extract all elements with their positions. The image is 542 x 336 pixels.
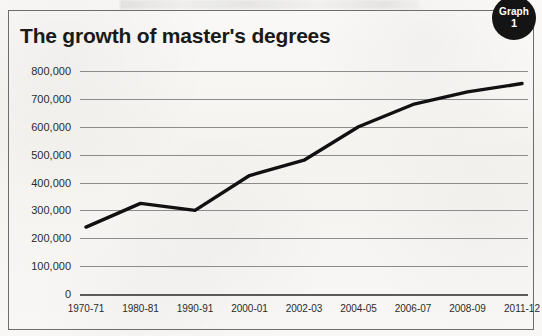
y-axis-tick-label: 400,000 bbox=[31, 177, 71, 189]
chart-page: The growth of master's degrees Graph 1 8… bbox=[0, 0, 542, 336]
x-axis-tick-label: 2008-09 bbox=[449, 303, 486, 314]
series-line-chart bbox=[80, 71, 528, 294]
y-axis-tick-label: 800,000 bbox=[31, 65, 71, 77]
y-axis-tick-label: 500,000 bbox=[31, 149, 71, 161]
y-axis-tick-label: 0 bbox=[65, 288, 71, 300]
y-axis-tick-label: 700,000 bbox=[31, 93, 71, 105]
x-axis-tick-label: 2000-01 bbox=[231, 303, 268, 314]
x-axis-tick-label: 2011-12 bbox=[504, 303, 540, 314]
x-axis-tick-label: 1970-71 bbox=[68, 303, 105, 314]
series-polyline bbox=[86, 84, 522, 228]
x-axis-tick-label: 1980-81 bbox=[122, 303, 159, 314]
y-axis-tick-label: 600,000 bbox=[31, 121, 71, 133]
x-axis-tick-label: 2002-03 bbox=[286, 303, 323, 314]
x-axis-tick-label: 2006-07 bbox=[395, 303, 432, 314]
y-axis-tick-label: 100,000 bbox=[31, 260, 71, 272]
page-bleed-artifact bbox=[120, 0, 420, 9]
gridline bbox=[80, 294, 528, 296]
y-axis-tick-label: 300,000 bbox=[31, 204, 71, 216]
badge-label: Graph bbox=[499, 7, 529, 17]
y-axis-tick-label: 200,000 bbox=[31, 232, 71, 244]
x-axis-tick-label: 2004-05 bbox=[340, 303, 377, 314]
badge-number: 1 bbox=[511, 18, 517, 29]
page-title: The growth of master's degrees bbox=[20, 24, 331, 48]
plot-area: 800,000700,000600,000500,000400,000300,0… bbox=[80, 71, 528, 294]
x-axis-tick-label: 1990-91 bbox=[177, 303, 214, 314]
